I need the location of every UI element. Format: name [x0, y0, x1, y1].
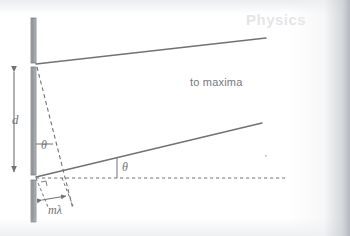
barrier-top-icon [31, 18, 36, 63]
label-angle-lower: θ [122, 160, 128, 175]
label-path-difference: mλ [48, 203, 62, 218]
ray-upper-line-icon [36, 38, 266, 64]
right-angle-tick-icon [41, 181, 47, 186]
label-angle-upper: θ [41, 138, 47, 153]
scan-speck-icon [265, 155, 267, 157]
barrier-middle-icon [31, 67, 36, 175]
ray-group [36, 38, 266, 177]
ray-lower-line-icon [36, 123, 262, 177]
barrier-bottom-icon [31, 180, 36, 222]
figure-canvas: Physics [0, 0, 350, 236]
theta-lower-arc-icon [133, 164, 140, 178]
path-difference-closing-dashed-icon [62, 178, 73, 206]
label-to-maxima: to maxima [190, 76, 243, 88]
double-slit-diagram [0, 0, 350, 236]
barrier-group [31, 18, 36, 222]
label-slit-separation: d [12, 112, 19, 128]
path-difference-arrow-icon [42, 196, 66, 200]
